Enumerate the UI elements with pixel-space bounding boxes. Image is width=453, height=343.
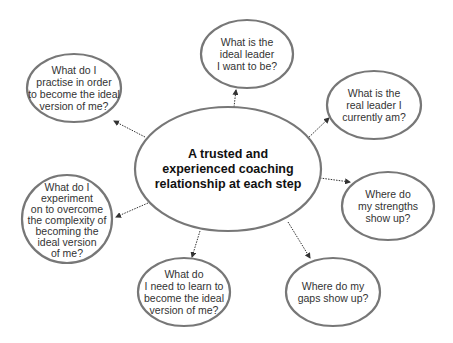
node-line: practise in order <box>28 76 120 88</box>
node-line: real leader I <box>342 99 406 111</box>
node-strengths: Where do my strengths show up? <box>344 176 432 236</box>
node-line: I need to learn to <box>144 280 224 292</box>
node-line: the complexity of <box>28 215 107 226</box>
node-line: becoming the <box>28 226 107 237</box>
center-line: experienced coaching <box>155 162 302 177</box>
node-line: currently am? <box>342 111 406 123</box>
center-line: A trusted and <box>155 147 302 162</box>
node-line: version of me? <box>28 100 120 112</box>
node-line: of me? <box>28 248 107 259</box>
node-practise: What do I practise in order to become th… <box>28 58 120 118</box>
node-line: my strengths <box>358 200 418 212</box>
node-gaps: Where do my gaps show up? <box>289 262 377 322</box>
node-line: Where do my <box>298 280 369 292</box>
node-line: show up? <box>358 212 418 224</box>
node-real-leader: What is the real leader I currently am? <box>330 75 418 135</box>
node-learn: What do I need to learn to become the id… <box>138 262 230 322</box>
node-ideal-leader: What is the ideal leader I want to be? <box>203 24 291 84</box>
node-line: experiment <box>28 193 107 204</box>
node-line: ideal leader <box>217 48 277 60</box>
arrow-to-learn <box>192 231 200 257</box>
node-line: ideal version <box>28 237 107 248</box>
node-line: What is the <box>342 87 406 99</box>
node-line: version of me? <box>144 304 224 316</box>
node-line: What is the <box>217 36 277 48</box>
node-line: on to overcome <box>28 204 107 215</box>
arrow-to-experiment <box>116 203 148 217</box>
node-line: What do I <box>28 64 120 76</box>
center-node: A trusted and experienced coaching relat… <box>140 135 316 203</box>
node-line: I want to be? <box>217 60 277 72</box>
node-experiment: What do I experiment on to overcome the … <box>22 178 112 262</box>
node-line: to become the ideal <box>28 88 120 100</box>
arrow-to-ideal-leader <box>234 90 236 107</box>
node-line: become the ideal <box>144 292 224 304</box>
arrow-to-gaps <box>288 222 310 258</box>
node-line: What do <box>144 268 224 280</box>
node-line: gaps show up? <box>298 292 369 304</box>
node-line: Where do <box>358 188 418 200</box>
center-line: relationship at each step <box>155 177 302 192</box>
node-line: What do I <box>28 182 107 193</box>
